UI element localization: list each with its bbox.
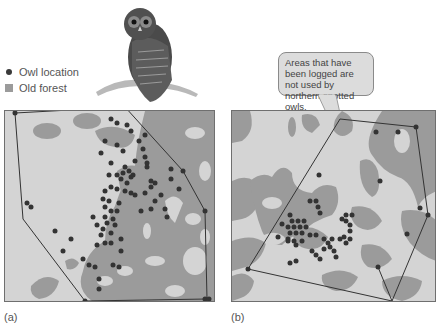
legend-item-old-forest: Old forest <box>4 80 79 96</box>
legend-label: Owl location <box>19 66 79 78</box>
dot-icon <box>6 69 12 75</box>
callout-bubble: Areas that have been logged are not used… <box>278 52 374 96</box>
habitat-map-a-icon <box>5 111 215 302</box>
legend-label: Old forest <box>19 82 67 94</box>
legend: Owl location Old forest <box>4 64 79 96</box>
map-panel-a <box>4 110 215 302</box>
caption-b: (b) <box>231 311 244 323</box>
habitat-map-b-icon <box>232 111 436 302</box>
caption-a: (a) <box>4 311 17 323</box>
square-icon <box>5 84 13 92</box>
callout-text: Areas that have been logged are not used… <box>285 57 354 112</box>
owl-illustration-icon <box>88 2 200 106</box>
map-panel-b <box>231 110 436 302</box>
legend-item-owl-location: Owl location <box>4 64 79 80</box>
